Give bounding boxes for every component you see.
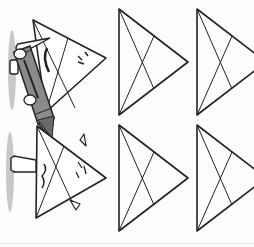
practice-triangle-4 bbox=[197, 125, 254, 231]
practice-triangle-1 bbox=[119, 9, 188, 115]
practice-triangle-2 bbox=[197, 9, 254, 115]
page-edge bbox=[0, 243, 254, 244]
character-triangle-bottom bbox=[36, 126, 106, 218]
worksheet-drawing bbox=[0, 0, 254, 247]
practice-triangle-3 bbox=[119, 125, 188, 231]
character-legs-bottom bbox=[11, 156, 36, 172]
worksheet-page bbox=[0, 0, 254, 247]
